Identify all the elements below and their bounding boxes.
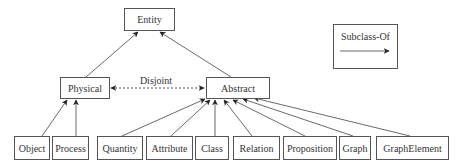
edge-proposition-abstract xyxy=(233,100,305,136)
node-entity-label: Entity xyxy=(137,14,161,25)
node-abstract: Abstract xyxy=(207,78,270,99)
node-proposition: Proposition xyxy=(284,137,337,160)
node-quantity: Quantity xyxy=(98,137,143,160)
node-graphelement-label: GraphElement xyxy=(383,143,442,154)
edge-abstract-entity xyxy=(160,32,231,77)
node-object-label: Object xyxy=(19,143,46,154)
ontology-diagram: Disjoint Entity Subclass-Of Physical Abs… xyxy=(0,0,461,167)
edge-object-physical xyxy=(42,100,67,136)
node-attribute: Attribute xyxy=(147,137,193,160)
node-graph-label: Graph xyxy=(343,143,368,154)
legend-label: Subclass-Of xyxy=(341,31,391,42)
node-abstract-label: Abstract xyxy=(221,83,255,94)
node-object: Object xyxy=(15,137,50,160)
node-quantity-label: Quantity xyxy=(103,143,138,154)
node-attribute-label: Attribute xyxy=(151,143,188,154)
node-class-label: Class xyxy=(201,143,223,154)
node-process-label: Process xyxy=(55,143,86,154)
node-physical: Physical xyxy=(61,78,110,99)
node-graphelement: GraphElement xyxy=(377,137,449,160)
edge-relation-abstract xyxy=(224,100,252,136)
node-class: Class xyxy=(196,137,229,160)
edge-physical-entity xyxy=(86,32,138,77)
node-entity: Entity xyxy=(125,9,175,31)
node-physical-label: Physical xyxy=(68,83,102,94)
edge-graphelement-abstract xyxy=(254,98,410,136)
node-relation: Relation xyxy=(234,137,280,160)
node-graph: Graph xyxy=(340,137,371,160)
edge-quantity-abstract xyxy=(122,99,205,136)
disjoint-label: Disjoint xyxy=(140,75,172,86)
node-relation-label: Relation xyxy=(240,143,274,154)
legend: Subclass-Of xyxy=(334,25,398,69)
node-proposition-label: Proposition xyxy=(287,143,333,154)
node-process: Process xyxy=(53,137,89,160)
edge-graph-abstract xyxy=(243,99,353,136)
